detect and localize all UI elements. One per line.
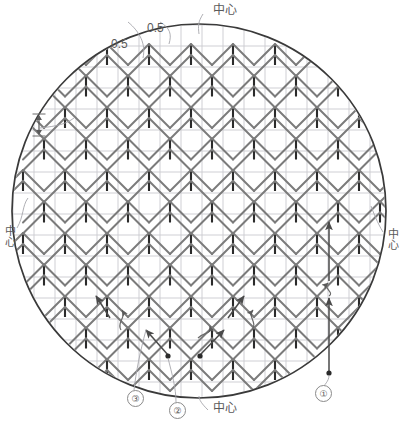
label-center-top: 中心 [213, 4, 237, 17]
stitch-chevron [65, 338, 86, 359]
stitch-chevron [317, 55, 338, 76]
stitch-chevron [380, 149, 401, 170]
callout-mark-3: ③ [127, 390, 144, 407]
stitch-chevron [107, 275, 128, 296]
stitch-chevron [65, 76, 86, 97]
stitch-chevron [233, 212, 254, 233]
stitch-chevron [191, 118, 212, 139]
stitch-chevron [44, 244, 65, 265]
stitch-chevron [275, 170, 296, 191]
label-center-bottom: 中心 [213, 402, 237, 415]
stitch-chevron [44, 359, 65, 380]
stitch-chevron [107, 296, 128, 317]
stitch-chevron [380, 202, 401, 223]
stitch-chevron [359, 307, 380, 328]
stitch-chevron [317, 86, 338, 107]
stitch-chevron [44, 202, 65, 223]
stitch-chevron [191, 170, 212, 191]
stitch-chevron [107, 328, 128, 349]
stitch-chevron [359, 212, 380, 233]
stitch-chevron [212, 149, 233, 170]
stitch-chevron [86, 296, 107, 317]
stitch-chevron [212, 170, 233, 191]
stitch-chevron [338, 233, 359, 254]
stitch-chevron [128, 265, 149, 286]
stitch-chevron [275, 212, 296, 233]
leader-dot-2 [197, 353, 202, 358]
stitch-chevron [359, 338, 380, 359]
stitch-chevron [191, 296, 212, 317]
stitch-chevron [191, 359, 212, 380]
label-half-right: 0.5 [147, 22, 164, 35]
stitch-chevron [233, 307, 254, 328]
stitch-chevron [149, 118, 170, 139]
stitch-chevron [191, 265, 212, 286]
stitch-chevron [401, 170, 406, 191]
stitch-chevron [317, 139, 338, 160]
stitch-chevron [212, 307, 233, 328]
stitch-chevron [338, 307, 359, 328]
stitch-chevron [296, 265, 317, 286]
stitch-chevron [44, 55, 65, 76]
stitch-chevron [170, 275, 191, 296]
stitch-chevron [170, 139, 191, 160]
stitch-chevron [107, 370, 128, 391]
stitch-chevron [65, 86, 86, 107]
stitch-chevron [254, 44, 275, 65]
stitch-chevron [107, 170, 128, 191]
stitch-chevron [149, 265, 170, 286]
stitch-chevron [233, 359, 254, 380]
stitch-chevron [296, 86, 317, 107]
stitch-chevron [275, 118, 296, 139]
stitch-chevron [254, 170, 275, 191]
stitch-chevron [170, 149, 191, 170]
stitch-chevron [23, 202, 44, 223]
stitch-chevron [23, 338, 44, 359]
stitch-chevron [128, 202, 149, 223]
stitch-chevron [275, 338, 296, 359]
stitch-chevron [107, 139, 128, 160]
stitch-chevron [86, 55, 107, 76]
stitch-chevron [296, 170, 317, 191]
stitch-chevron [191, 233, 212, 254]
stitch-chevron [296, 107, 317, 128]
stitch-chevron [107, 212, 128, 233]
stitch-chevron [170, 202, 191, 223]
stitch-chevron [128, 55, 149, 76]
stitch-chevron [86, 233, 107, 254]
stitch-chevron [86, 275, 107, 296]
stitch-chevron [233, 328, 254, 349]
stitch-chevron [170, 359, 191, 380]
stitch-chevron [128, 212, 149, 233]
stitch-chevron [359, 233, 380, 254]
stitch-chevron [275, 86, 296, 107]
stitch-chevron [191, 86, 212, 107]
stitch-chevron [317, 275, 338, 296]
stitch-chevron [254, 202, 275, 223]
stitch-chevron [23, 244, 44, 265]
stitch-chevron [212, 296, 233, 317]
stitch-chevron [233, 244, 254, 265]
stitch-chevron [128, 86, 149, 107]
stitch-chevron [2, 307, 23, 328]
stitch-chevron [170, 44, 191, 65]
stitch-chevron [191, 44, 212, 65]
stitch-chevron [107, 233, 128, 254]
stitch-chevron [254, 338, 275, 359]
stitch-chevron [86, 202, 107, 223]
stitch-chevron [338, 139, 359, 160]
stitch-chevron [44, 233, 65, 254]
stitch-chevron [107, 338, 128, 359]
stitch-chevron [233, 55, 254, 76]
stitch-chevron [2, 296, 23, 317]
leader-dot-3 [165, 353, 170, 358]
stitch-chevron [296, 338, 317, 359]
stitch-chevron [338, 328, 359, 349]
stitch-chevron [170, 265, 191, 286]
stitch-chevron [338, 275, 359, 296]
stitch-chevron [170, 55, 191, 76]
leader-center-left [17, 198, 28, 228]
stitch-chevron [233, 202, 254, 223]
stitch-chevron [233, 370, 254, 391]
stitch-chevron [212, 212, 233, 233]
